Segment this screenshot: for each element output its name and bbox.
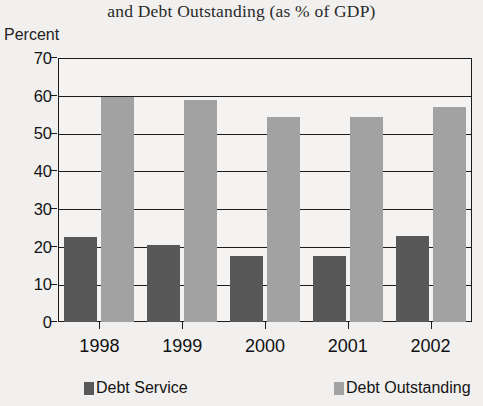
bar-debt-service-2000 bbox=[230, 256, 263, 322]
y-axis-tick-label: 50 bbox=[12, 124, 52, 143]
legend-label: Debt Service bbox=[96, 379, 188, 397]
y-axis-tick-label: 20 bbox=[12, 237, 52, 256]
bar-debt-outstanding-2002 bbox=[433, 107, 466, 322]
bar-debt-service-2002 bbox=[396, 236, 429, 322]
bar-debt-service-1998 bbox=[64, 237, 97, 322]
y-axis-tick-label: 10 bbox=[12, 275, 52, 294]
y-axis-tick-label: 0 bbox=[12, 313, 52, 332]
legend-item-debt-service: Debt Service bbox=[84, 379, 188, 397]
y-axis-tick-label: 70 bbox=[12, 49, 52, 68]
chart-legend: Debt Service Debt Outstanding bbox=[0, 379, 483, 403]
y-axis-title: Percent bbox=[4, 26, 59, 44]
bar-debt-outstanding-1999 bbox=[184, 100, 217, 323]
x-axis-tick-mark bbox=[182, 322, 183, 329]
x-axis-tick-label: 1998 bbox=[79, 336, 119, 357]
x-axis-tick-label: 2000 bbox=[245, 336, 285, 357]
x-axis-tick-mark bbox=[99, 322, 100, 329]
x-axis-tick-label: 1999 bbox=[162, 336, 202, 357]
y-axis-tick-label: 30 bbox=[12, 199, 52, 218]
legend-item-debt-outstanding: Debt Outstanding bbox=[334, 379, 471, 397]
x-axis-tick-mark bbox=[265, 322, 266, 329]
bar-debt-service-1999 bbox=[147, 245, 180, 322]
bars-layer bbox=[58, 58, 472, 322]
y-axis-tick-labels: 010203040506070 bbox=[8, 58, 52, 322]
bar-debt-outstanding-2000 bbox=[267, 117, 300, 322]
legend-swatch-icon bbox=[334, 382, 344, 395]
y-axis-tick-label: 40 bbox=[12, 162, 52, 181]
bar-debt-outstanding-2001 bbox=[350, 117, 383, 322]
chart-title: and Debt Outstanding (as % of GDP) bbox=[0, 1, 483, 22]
bar-chart: and Debt Outstanding (as % of GDP) Perce… bbox=[0, 0, 483, 406]
x-axis-tick-label: 2001 bbox=[328, 336, 368, 357]
x-axis-tick-mark bbox=[348, 322, 349, 329]
x-axis-tick-label: 2002 bbox=[411, 336, 451, 357]
y-axis-tick-label: 60 bbox=[12, 86, 52, 105]
x-axis-tick-mark bbox=[431, 322, 432, 329]
bar-debt-outstanding-1998 bbox=[101, 97, 134, 322]
legend-label: Debt Outstanding bbox=[346, 379, 471, 397]
legend-swatch-icon bbox=[84, 382, 94, 395]
bar-debt-service-2001 bbox=[313, 256, 346, 322]
